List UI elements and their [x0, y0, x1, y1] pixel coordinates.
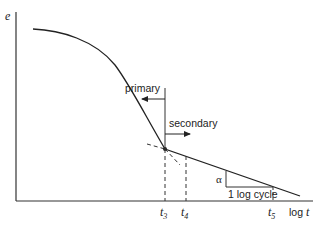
tick-t5: t5	[268, 205, 275, 221]
log-cycle-label: 1 log cycle	[228, 188, 278, 200]
tick-t3: t3	[160, 205, 167, 221]
y-axis-label: e	[5, 9, 11, 23]
consolidation-diagram: e primary secondary α 1 log cycle t3 t4 …	[0, 0, 324, 228]
slope-alpha-label: α	[216, 173, 222, 185]
tick-t4: t4	[181, 205, 188, 221]
secondary-label: secondary	[169, 117, 218, 129]
primary-label: primary	[125, 82, 161, 94]
consolidation-curve	[33, 29, 300, 196]
x-axis-label: logt	[289, 205, 310, 219]
